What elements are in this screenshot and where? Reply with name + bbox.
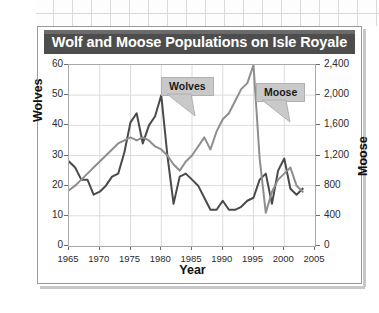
- y-tick-mark-right: [316, 245, 320, 246]
- card-shadow-bottom: [40, 286, 365, 289]
- y-axis-label-right: Moose: [356, 136, 370, 176]
- y-tick-label-left: 30: [37, 150, 63, 160]
- callout-tail-wolves: [161, 76, 221, 120]
- y-tick-label-right: 2,400: [324, 59, 354, 69]
- y-tick-mark-right: [316, 64, 320, 65]
- paper-mask-left: [0, 0, 36, 313]
- chart-container: Wolves Moose Year 0102030405060 04008001…: [37, 26, 362, 284]
- y-tick-label-right: 800: [324, 180, 354, 190]
- annotation-callout-moose: Moose: [256, 82, 305, 102]
- y-tick-label-right: 400: [324, 210, 354, 220]
- y-tick-mark-right: [316, 155, 320, 156]
- page-title: Wolf and Moose Populations on Isle Royal…: [52, 34, 347, 50]
- y-tick-label-left: 60: [37, 59, 63, 69]
- y-tick-label-right: 2,000: [324, 89, 354, 99]
- y-tick-label-right: 1,600: [324, 119, 354, 129]
- y-tick-mark-right: [316, 124, 320, 125]
- x-tick-label: 2005: [299, 254, 329, 264]
- y-tick-label-left: 40: [37, 119, 63, 129]
- x-tick-label: 1980: [145, 254, 175, 264]
- x-tick-label: 2000: [268, 254, 298, 264]
- x-tick-label: 1965: [53, 254, 83, 264]
- annotation-callout-wolves: Wolves: [161, 76, 214, 96]
- y-tick-label-left: 10: [37, 210, 63, 220]
- y-tick-label-left: 20: [37, 180, 63, 190]
- y-tick-mark-right: [316, 94, 320, 95]
- x-axis-label: Year: [37, 263, 348, 277]
- y-axis-label-left: Wolves: [31, 78, 45, 122]
- y-tick-label-left: 50: [37, 89, 63, 99]
- y-tick-label-right: 1,200: [324, 150, 354, 160]
- y-tick-label-right: 0: [324, 240, 354, 250]
- x-tick-label: 1975: [115, 254, 145, 264]
- y-tick-label-left: 0: [37, 240, 63, 250]
- x-tick-label: 1995: [238, 254, 268, 264]
- y-tick-mark-right: [316, 215, 320, 216]
- y-tick-mark-right: [316, 185, 320, 186]
- callout-tail-moose: [256, 82, 316, 126]
- x-tick-label: 1970: [84, 254, 114, 264]
- x-tick-label: 1990: [207, 254, 237, 264]
- x-tick-label: 1985: [176, 254, 206, 264]
